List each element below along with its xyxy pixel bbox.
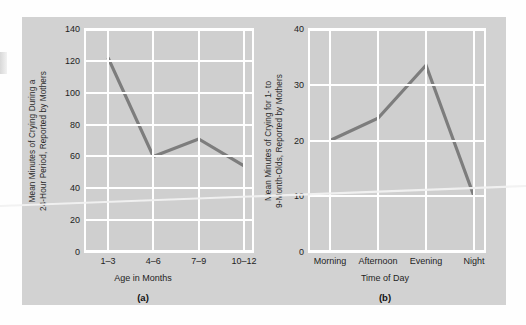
series-polyline <box>108 58 244 166</box>
plot-area-b <box>308 29 486 252</box>
x-tick-label: Night <box>463 256 484 266</box>
gridline-h <box>308 84 486 86</box>
gridline-v <box>377 29 379 252</box>
gridline-h <box>84 251 254 253</box>
gridline-v <box>473 29 475 252</box>
gridline-v <box>329 29 331 252</box>
y-tick-label: 0 <box>299 247 304 257</box>
scan-edge-artifact <box>0 52 7 74</box>
x-axis-title-a: Age in Months <box>22 273 264 283</box>
x-tick-label: Afternoon <box>358 256 397 266</box>
y-tick-label: 100 <box>65 88 80 98</box>
gridline-v <box>107 29 109 252</box>
gridline-h <box>308 195 486 197</box>
x-tick-label: 7–9 <box>191 256 206 266</box>
x-tick-label: Evening <box>410 256 443 266</box>
y-tick-label: 20 <box>294 136 304 146</box>
y-axis-title-a-line2: 24-Hour Period, Reported by Mothers <box>39 70 50 210</box>
chart-panel-b: Mean Minutes of Crying for 1- to 9-Month… <box>264 17 506 305</box>
x-axis-ticks-a: 1–34–67–910–12 <box>84 256 254 270</box>
y-axis-ticks-b: 010203040 <box>278 29 304 252</box>
y-tick-label: 10 <box>294 191 304 201</box>
y-tick-label: 20 <box>70 215 80 225</box>
y-tick-label: 120 <box>65 56 80 66</box>
gridline-h <box>84 28 254 30</box>
x-tick-label: 4–6 <box>146 256 161 266</box>
x-axis-title-b: Time of Day <box>264 273 506 283</box>
y-tick-label: 40 <box>294 24 304 34</box>
y-axis-title-a-line1: Mean Minutes of Crying During a <box>28 70 39 210</box>
gridline-h <box>84 187 254 189</box>
gridline-h <box>84 219 254 221</box>
gridline-h <box>308 28 486 30</box>
y-axis-title-a: Mean Minutes of Crying During a 24-Hour … <box>28 70 49 210</box>
y-tick-label: 30 <box>294 80 304 90</box>
gridline-v <box>198 29 200 252</box>
x-axis-ticks-b: MorningAfternoonEveningNight <box>308 256 486 270</box>
plot-area-a <box>84 29 254 252</box>
gridline-h <box>84 155 254 157</box>
panel-letter-b: (b) <box>264 292 506 303</box>
gridline-h <box>84 124 254 126</box>
gridline-h <box>308 251 486 253</box>
gridline-h <box>308 140 486 142</box>
x-tick-label: 10–12 <box>231 256 256 266</box>
x-tick-label: 1–3 <box>100 256 115 266</box>
chart-panel-a: Mean Minutes of Crying During a 24-Hour … <box>22 17 264 305</box>
gridline-v <box>243 29 245 252</box>
gridline-h <box>84 60 254 62</box>
y-axis-ticks-a: 020406080100120140 <box>52 29 80 252</box>
y-tick-label: 80 <box>70 120 80 130</box>
gridline-v <box>152 29 154 252</box>
gridline-h <box>84 92 254 94</box>
y-tick-label: 140 <box>65 24 80 34</box>
gridline-v <box>425 29 427 252</box>
y-tick-label: 40 <box>70 183 80 193</box>
y-tick-label: 0 <box>75 247 80 257</box>
x-tick-label: Morning <box>314 256 347 266</box>
panel-letter-a: (a) <box>22 292 264 303</box>
y-tick-label: 60 <box>70 151 80 161</box>
figure-container: Mean Minutes of Crying During a 24-Hour … <box>0 0 526 325</box>
y-axis-title-b-line1: Mean Minutes of Crying for 1- to <box>264 74 275 208</box>
